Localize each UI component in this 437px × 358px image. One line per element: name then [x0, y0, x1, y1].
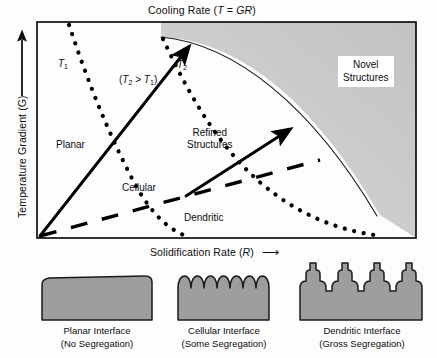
planar-caption-subtitle: (No Segregation) — [37, 337, 157, 350]
t1-curve-label: T1 — [58, 58, 68, 72]
dendritic-caption-title: Dendritic Interface — [300, 324, 424, 337]
ineq-gt: > — [132, 74, 143, 85]
region-label-novel-structures: Novel Structures — [338, 56, 394, 87]
x-axis-label: Solidification Rate (R) ⟶ — [150, 245, 279, 259]
planar-interface-shape — [42, 276, 152, 320]
cellular-dendritic-boundary — [40, 160, 320, 236]
cellular-caption-title: Cellular Interface — [164, 324, 284, 337]
cellular-interface-caption: Cellular Interface (Some Segregation) — [164, 324, 284, 350]
t2-sub: 2 — [183, 63, 187, 72]
ineq-close: ) — [154, 74, 157, 85]
temperature-inequality-note: (T2 > T1) — [119, 74, 157, 88]
dendritic-caption-subtitle: (Gross Segregation) — [300, 337, 424, 350]
region-label-cellular: Cellular — [122, 182, 156, 194]
planar-interface-caption: Planar Interface (No Segregation) — [37, 324, 157, 350]
dendritic-interface-caption: Dendritic Interface (Gross Segregation) — [300, 324, 424, 350]
diagram-canvas — [0, 0, 437, 358]
region-label-dendritic: Dendritic — [184, 212, 223, 224]
planar-caption-title: Planar Interface — [37, 324, 157, 337]
novel-line-1: Novel — [343, 58, 389, 71]
region-label-refined-structures: Refined Structures — [187, 127, 233, 151]
x-axis-label-text: Solidification Rate (R) — [150, 246, 254, 258]
t1-sub: 1 — [64, 62, 68, 71]
cellular-caption-subtitle: (Some Segregation) — [164, 337, 284, 350]
refined-line-1: Refined — [187, 127, 233, 139]
refined-line-2: Structures — [187, 139, 233, 151]
x-axis-arrow-icon: ⟶ — [262, 245, 279, 259]
region-label-planar: Planar — [56, 139, 85, 151]
cellular-interface-shape — [178, 276, 269, 320]
solidification-map-figure: Cooling Rate (T = GR) Temperature Gradie… — [0, 0, 437, 358]
t1-isotherm-curve — [69, 25, 186, 236]
novel-line-2: Structures — [343, 71, 389, 84]
t2-curve-label: T2 — [177, 59, 187, 73]
dendritic-interface-shape — [300, 263, 422, 320]
